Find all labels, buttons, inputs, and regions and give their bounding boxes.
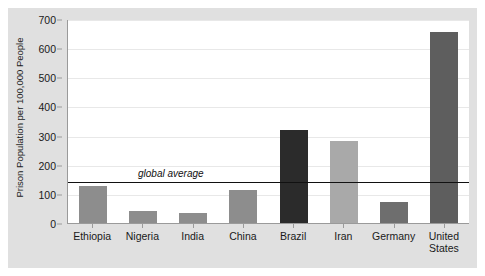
x-axis-tick-labels: EthiopiaNigeriaIndiaChinaBrazilIranGerma…	[67, 230, 469, 264]
y-axis-tick-label: 400	[38, 101, 56, 113]
global-average-label: global average	[138, 168, 204, 179]
x-axis-tick-label: India	[168, 230, 218, 264]
x-axis-tick-mark	[142, 224, 143, 228]
global-average-line	[68, 182, 469, 183]
bar-brazil[interactable]	[280, 130, 308, 223]
x-axis-tick-slot	[268, 224, 318, 228]
y-axis-tick-label: 500	[38, 72, 56, 84]
bar-slot	[319, 20, 369, 223]
y-axis-tick-mark	[57, 224, 62, 225]
y-axis-title-text: Prison Population per 100,000 People	[14, 37, 25, 197]
x-axis-tick-label: Nigeria	[117, 230, 167, 264]
x-axis-tick-label-line: Nigeria	[117, 230, 167, 242]
x-axis-tick-label: Ethiopia	[67, 230, 117, 264]
x-axis-tick-mark	[293, 224, 294, 228]
bar-ethiopia[interactable]	[79, 186, 107, 223]
bar-slot	[118, 20, 168, 223]
x-axis-tick-slot	[168, 224, 218, 228]
bar-series	[68, 20, 469, 223]
x-axis-tick-label-line: Ethiopia	[67, 230, 117, 242]
bar-slot	[369, 20, 419, 223]
bar-slot	[419, 20, 469, 223]
x-axis-tick-slot	[67, 224, 117, 228]
bar-china[interactable]	[229, 190, 257, 224]
y-axis-tick-label: 100	[38, 189, 56, 201]
x-axis-tick-label-line: States	[419, 242, 469, 254]
bar-germany[interactable]	[380, 202, 408, 223]
chart-panel: Prison Population per 100,000 People 700…	[8, 8, 477, 268]
x-axis-tick-slot	[117, 224, 167, 228]
y-axis-tick-labels: 7006005004003002001000	[30, 20, 62, 224]
y-axis-tick-mark	[57, 194, 62, 195]
x-axis-tick-slot	[218, 224, 268, 228]
y-axis-tick-label: 300	[38, 131, 56, 143]
plot-area: global average	[67, 20, 469, 224]
y-axis-tick-mark	[57, 49, 62, 50]
bar-slot	[269, 20, 319, 223]
x-axis-tick-slot	[318, 224, 368, 228]
x-axis-tick-marks	[67, 224, 469, 228]
y-axis-tick-label: 200	[38, 160, 56, 172]
x-axis-tick-label: Germany	[369, 230, 419, 264]
bar-united-states[interactable]	[430, 32, 458, 223]
bar-slot	[168, 20, 218, 223]
x-axis-tick-label-line: United	[419, 230, 469, 242]
y-axis-tick-mark	[57, 107, 62, 108]
x-axis-tick-mark	[193, 224, 194, 228]
bar-slot	[218, 20, 268, 223]
x-axis-tick-slot	[419, 224, 469, 228]
y-axis-tick-label: 600	[38, 43, 56, 55]
y-axis-tick-mark	[57, 165, 62, 166]
y-axis-title: Prison Population per 100,000 People	[8, 8, 30, 226]
bar-india[interactable]	[179, 213, 207, 223]
x-axis-tick-label: UnitedStates	[419, 230, 469, 264]
x-axis-tick-mark	[394, 224, 395, 228]
x-axis-tick-label: Iran	[318, 230, 368, 264]
y-axis-tick-mark	[57, 78, 62, 79]
bar-slot	[68, 20, 118, 223]
x-axis-tick-label: Brazil	[268, 230, 318, 264]
x-axis-tick-mark	[444, 224, 445, 228]
y-axis-tick-mark	[57, 136, 62, 137]
x-axis-tick-label-line: India	[168, 230, 218, 242]
x-axis-tick-mark	[243, 224, 244, 228]
x-axis-tick-slot	[369, 224, 419, 228]
y-axis-tick-mark	[57, 20, 62, 21]
x-axis-tick-label-line: Iran	[318, 230, 368, 242]
x-axis-tick-label-line: China	[218, 230, 268, 242]
bar-nigeria[interactable]	[129, 211, 157, 223]
x-axis-tick-label-line: Germany	[369, 230, 419, 242]
y-axis-tick-label: 0	[50, 218, 56, 230]
x-axis-tick-label-line: Brazil	[268, 230, 318, 242]
x-axis-tick-mark	[92, 224, 93, 228]
x-axis-tick-label: China	[218, 230, 268, 264]
x-axis-tick-mark	[343, 224, 344, 228]
y-axis-tick-label: 700	[38, 14, 56, 26]
